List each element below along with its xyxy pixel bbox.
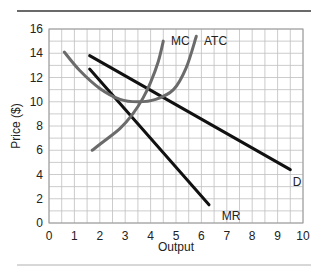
x-tick-label: 2 — [96, 229, 103, 243]
y-tick-labels: 0246810121416 — [30, 22, 44, 230]
y-tick-label: 14 — [30, 46, 44, 60]
y-tick-label: 2 — [36, 192, 43, 206]
y-tick-label: 10 — [30, 95, 44, 109]
y-tick-label: 8 — [36, 119, 43, 133]
series-label-mc: MC — [171, 34, 190, 48]
chart: 0246810121416 012345678910 DMRMCATC Outp… — [0, 0, 326, 276]
x-tick-label: 1 — [71, 229, 78, 243]
x-tick-label: 7 — [223, 229, 230, 243]
x-tick-label: 3 — [122, 229, 129, 243]
x-tick-label: 8 — [249, 229, 256, 243]
x-tick-label: 6 — [198, 229, 205, 243]
x-tick-label: 0 — [46, 229, 53, 243]
y-tick-label: 0 — [36, 216, 43, 230]
x-tick-label: 4 — [147, 229, 154, 243]
series-d-line — [90, 56, 291, 170]
y-tick-label: 12 — [30, 71, 44, 85]
x-axis-label: Output — [158, 240, 195, 254]
series-labels: DMRMCATC — [171, 34, 302, 223]
y-axis-label: Price ($) — [9, 103, 23, 148]
x-tick-label: 9 — [274, 229, 281, 243]
series-label-mr: MR — [222, 209, 241, 223]
series-layer — [64, 36, 290, 205]
y-tick-label: 6 — [36, 143, 43, 157]
x-tick-label: 10 — [296, 229, 310, 243]
grid — [49, 29, 303, 223]
series-label-d: D — [293, 175, 302, 189]
series-mc-line — [92, 41, 163, 150]
series-label-atc: ATC — [204, 34, 227, 48]
y-tick-label: 16 — [30, 22, 44, 36]
y-tick-label: 4 — [36, 168, 43, 182]
